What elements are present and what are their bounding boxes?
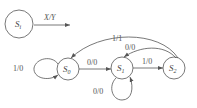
legend-transition-label: X/Y xyxy=(43,13,57,22)
svg-text:0/0: 0/0 xyxy=(125,43,135,52)
transition-s0-s1: 0/0 xyxy=(79,58,111,69)
svg-text:1/1: 1/1 xyxy=(112,34,122,43)
svg-text:0/0: 0/0 xyxy=(87,58,97,67)
transition-s1-s2: 1/0 xyxy=(133,57,163,68)
legend: Si X/Y xyxy=(5,10,70,38)
state-s0: S0 xyxy=(57,58,79,80)
transition-s1-s1: 0/0 xyxy=(93,77,132,100)
state-s1: S1 xyxy=(111,57,133,79)
svg-text:1/0: 1/0 xyxy=(13,64,23,73)
state-diagram: Si X/Y S0 S1 S2 1/0 0/0 0/0 1/0 0/0 xyxy=(0,0,197,108)
legend-state-label: Si xyxy=(15,19,22,30)
svg-text:1/0: 1/0 xyxy=(142,57,152,66)
transition-s2-s1: 0/0 xyxy=(124,43,176,58)
transition-s0-s0: 1/0 xyxy=(13,59,58,79)
state-s2: S2 xyxy=(163,57,185,79)
svg-text:0/0: 0/0 xyxy=(93,87,103,96)
